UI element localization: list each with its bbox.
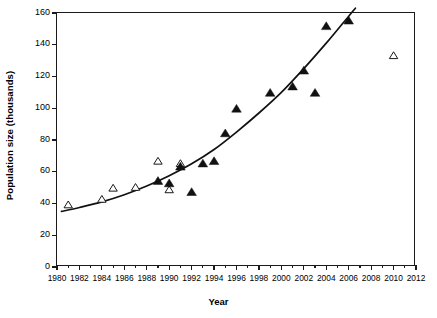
x-tick-label: 2000 (272, 273, 291, 283)
data-point (232, 104, 242, 112)
x-axis-title: Year (0, 296, 437, 307)
data-point (164, 179, 174, 187)
plot-area: 020406080100120140160 198019821984198619… (56, 12, 415, 266)
data-point (220, 129, 230, 137)
data-point (154, 157, 162, 164)
x-tick-label: 2010 (384, 273, 403, 283)
x-tick-label: 2008 (362, 273, 381, 283)
x-tick-label: 1988 (137, 273, 156, 283)
data-point (109, 184, 117, 191)
y-tick-label: 20 (40, 229, 50, 239)
data-point (153, 177, 163, 185)
data-point (321, 22, 331, 30)
x-tick-label: 1990 (160, 273, 179, 283)
data-point (131, 184, 139, 191)
y-tick-label: 120 (35, 70, 50, 80)
y-tick-label: 100 (35, 102, 50, 112)
y-tick-label: 40 (40, 197, 50, 207)
y-tick-label: 0 (45, 261, 50, 271)
data-point (389, 52, 397, 59)
y-tick-label: 140 (35, 38, 50, 48)
scatter-chart: Population size (thousands) 020406080100… (0, 0, 437, 318)
x-tick-label: 1982 (70, 273, 89, 283)
series-filled (153, 16, 353, 195)
trend-line (61, 8, 355, 211)
x-tick-label: 1986 (115, 273, 134, 283)
y-axis-title: Population size (thousands) (2, 0, 18, 270)
x-tick-label: 1994 (205, 273, 224, 283)
data-layer (57, 13, 416, 267)
x-tick-label: 1984 (93, 273, 112, 283)
y-tick-label: 160 (35, 7, 50, 17)
x-tick-label: 1998 (250, 273, 269, 283)
x-tick-label: 1996 (227, 273, 246, 283)
data-point (265, 89, 275, 97)
data-point (64, 201, 72, 208)
x-tick-label: 1992 (182, 273, 201, 283)
data-point (299, 66, 309, 74)
data-point (187, 188, 197, 196)
x-tick-label: 2006 (339, 273, 358, 283)
data-point (209, 157, 219, 165)
x-tick-label: 2004 (317, 273, 336, 283)
x-tick-label: 1980 (48, 273, 67, 283)
x-tick-label: 2012 (407, 273, 426, 283)
data-point (198, 159, 208, 167)
y-tick-label: 60 (40, 165, 50, 175)
data-point (98, 195, 106, 202)
x-tick-label: 2002 (294, 273, 313, 283)
y-tick-label: 80 (40, 134, 50, 144)
series-open (64, 52, 398, 208)
data-point (310, 89, 320, 97)
